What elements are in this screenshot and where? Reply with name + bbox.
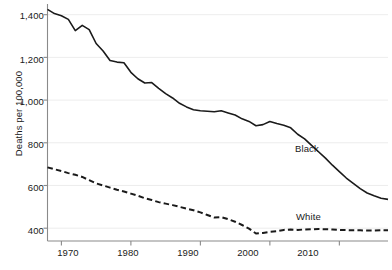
x-tick-label: 1990 bbox=[170, 247, 206, 258]
series-label-white: White bbox=[296, 211, 321, 222]
x-tick-label: 1980 bbox=[110, 247, 146, 258]
series-lines bbox=[48, 9, 389, 233]
x-tick-label: 2000 bbox=[230, 247, 266, 258]
plot-area bbox=[0, 0, 392, 270]
x-tick-label: 1970 bbox=[50, 247, 86, 258]
mortality-trend-chart: Deaths per 100,000 1,400 1,200 1,000 800… bbox=[0, 0, 392, 270]
axis-ticks bbox=[44, 15, 340, 246]
axis-lines bbox=[48, 4, 389, 241]
series-label-black: Black bbox=[295, 143, 319, 154]
x-tick-label: 2010 bbox=[290, 247, 326, 258]
